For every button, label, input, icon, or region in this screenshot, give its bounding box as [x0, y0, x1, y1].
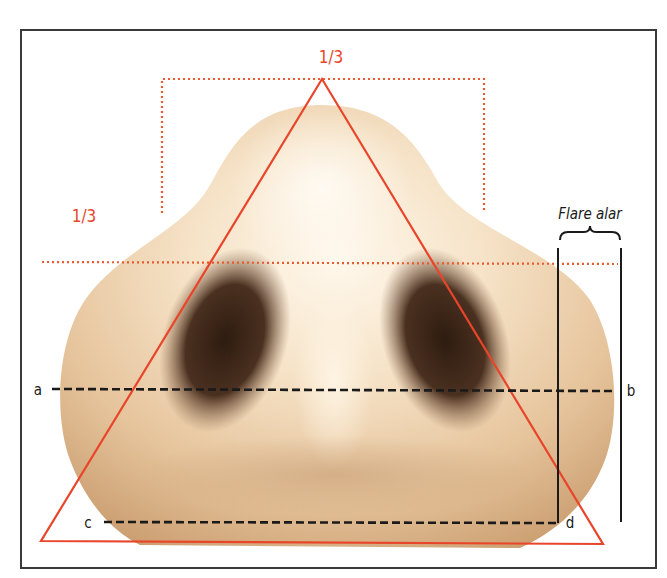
nasal-base-diagram: 1/3 1/3 Flare alar a b c d	[0, 0, 667, 578]
flare-alar-label: Flare alar	[558, 205, 623, 223]
diagram-canvas: 1/3 1/3 Flare alar a b c d	[0, 0, 667, 578]
point-c-label: c	[84, 514, 91, 532]
top-fraction-label: 1/3	[319, 47, 344, 67]
nasal-tip-highlight	[232, 110, 412, 270]
alar-base-shadow	[135, 435, 535, 515]
point-a-label: a	[34, 381, 42, 399]
point-b-label: b	[627, 382, 636, 400]
point-d-label: d	[566, 514, 575, 532]
left-fraction-label: 1/3	[72, 206, 97, 226]
flare-brace-icon	[560, 226, 620, 240]
